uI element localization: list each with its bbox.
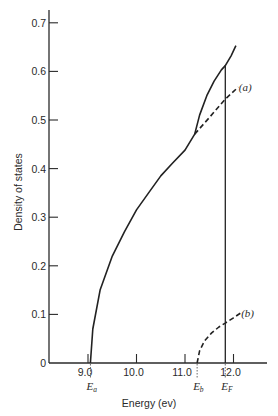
x-tick-label: 11.0 xyxy=(172,366,192,378)
series-line xyxy=(197,313,241,363)
y-tick-label: 0.4 xyxy=(31,163,46,175)
x-tick-label: 10.0 xyxy=(123,366,144,378)
y-tick-label: 0.2 xyxy=(31,260,46,272)
y-tick-label: 0.1 xyxy=(31,308,46,320)
series-line xyxy=(90,46,236,363)
x-tick-label: 12.0 xyxy=(220,366,241,378)
marker-label: Eb xyxy=(192,380,204,394)
x-ticks: 9.010.011.012.0 xyxy=(78,354,241,378)
marker-label: Ea xyxy=(85,380,97,394)
y-axis-title: Density of states xyxy=(12,153,24,231)
y-tick-label: 0 xyxy=(40,357,46,369)
curve-label: (a) xyxy=(239,81,252,94)
y-tick-label: 0.6 xyxy=(31,65,46,77)
y-tick-label: 0.7 xyxy=(31,17,46,29)
y-tick-label: 0.5 xyxy=(31,114,46,126)
x-axis-title: Energy (ev) xyxy=(122,397,176,409)
density-of-states-chart: 00.10.20.30.40.50.60.7 9.010.011.012.0 D… xyxy=(0,0,278,416)
curve-label: (b) xyxy=(241,307,254,320)
series-group xyxy=(90,46,240,363)
energy-markers: EaEbEF xyxy=(85,364,233,394)
y-tick-label: 0.3 xyxy=(31,211,46,223)
marker-label: EF xyxy=(220,380,233,394)
y-ticks: 00.10.20.30.40.50.60.7 xyxy=(31,17,58,369)
annotations: (a)(b) xyxy=(239,81,255,320)
